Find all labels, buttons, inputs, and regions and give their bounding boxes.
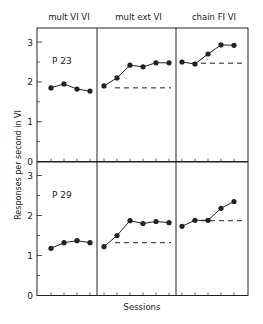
- data-point: [61, 81, 66, 86]
- data-point: [231, 43, 236, 48]
- data-point: [101, 244, 106, 249]
- data-point: [192, 61, 197, 66]
- data-point: [140, 221, 145, 226]
- data-point: [166, 220, 171, 225]
- data-point: [218, 42, 223, 47]
- data-point: [205, 218, 210, 223]
- data-point: [179, 59, 184, 64]
- y-tick-label: 1: [27, 251, 33, 261]
- condition-title-2: chain FI VI: [192, 12, 236, 22]
- data-point: [192, 218, 197, 223]
- x-axis-label: Sessions: [124, 302, 161, 312]
- chart-figure: mult VI VImult ext VIchain FI VI0123P 23…: [0, 0, 263, 324]
- panel-frame-1: [37, 162, 248, 296]
- condition-title-0: mult VI VI: [48, 12, 89, 22]
- data-point: [114, 233, 119, 238]
- y-tick-label: 3: [27, 38, 33, 48]
- condition-title-1: mult ext VI: [115, 12, 162, 22]
- y-tick-label: 1: [27, 117, 33, 127]
- data-point: [74, 87, 79, 92]
- data-point: [153, 219, 158, 224]
- chart-canvas: mult VI VImult ext VIchain FI VI0123P 23…: [0, 0, 263, 324]
- data-point: [87, 89, 92, 94]
- data-point: [48, 246, 53, 251]
- data-point: [48, 85, 53, 90]
- y-tick-label: 0: [27, 157, 33, 167]
- subject-label: P 29: [52, 190, 72, 200]
- data-point: [205, 51, 210, 56]
- y-tick-label: 2: [27, 211, 33, 221]
- data-point: [101, 83, 106, 88]
- data-point: [218, 206, 223, 211]
- data-point: [179, 224, 184, 229]
- data-line: [51, 84, 90, 91]
- y-tick-label: 2: [27, 77, 33, 87]
- data-point: [127, 218, 132, 223]
- y-axis-label: Responses per second in VI: [14, 110, 23, 220]
- data-line: [104, 63, 169, 86]
- data-point: [74, 238, 79, 243]
- subject-label: P 23: [52, 56, 72, 66]
- y-tick-label: 0: [27, 291, 33, 301]
- data-point: [153, 60, 158, 65]
- data-point: [231, 199, 236, 204]
- data-point: [127, 63, 132, 68]
- y-tick-label: 3: [27, 171, 33, 181]
- data-point: [87, 240, 92, 245]
- data-line: [51, 241, 90, 249]
- data-point: [140, 64, 145, 69]
- data-point: [61, 240, 66, 245]
- data-point: [166, 60, 171, 65]
- data-point: [114, 75, 119, 80]
